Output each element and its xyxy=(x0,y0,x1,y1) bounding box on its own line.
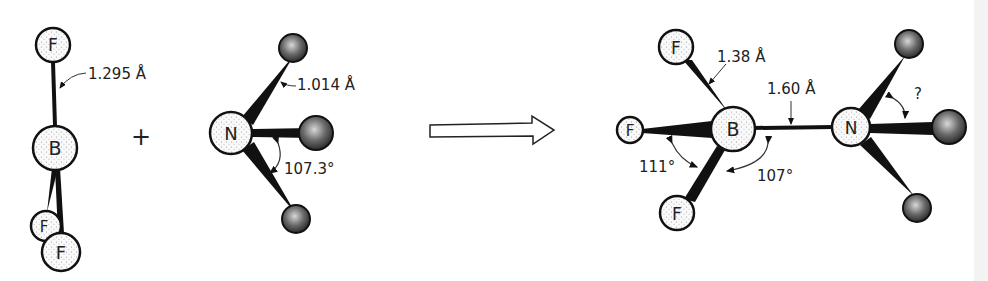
fbn-angle-label: 107° xyxy=(757,167,793,185)
fluorine-atom: F xyxy=(36,28,70,62)
svg-text:F: F xyxy=(48,35,58,55)
wedge-bond xyxy=(242,142,296,214)
fbf-angle-label: 111° xyxy=(639,158,675,176)
leader-arrow xyxy=(60,73,86,88)
hydrogen-atom xyxy=(932,110,966,144)
nitrogen-atom: N xyxy=(210,112,252,154)
boron-atom: B xyxy=(33,126,77,170)
nitrogen-atom: N xyxy=(832,108,870,146)
wedge-bond xyxy=(860,137,914,196)
bf-bond xyxy=(53,62,55,126)
reaction-diagram: F B F F 1.295 Å + N 1.014 Å 107.3 xyxy=(0,0,988,281)
fluorine-atom: F xyxy=(659,30,693,64)
angle-arrow xyxy=(893,98,905,118)
fluorine-atom: F xyxy=(617,117,643,143)
svg-text:F: F xyxy=(40,218,49,236)
bond-length-label: 1.295 Å xyxy=(88,64,147,83)
bn-bond-length-label: 1.60 Å xyxy=(767,79,816,98)
product-molecule: F F B F N 1.38 Å 1.60 Å 111° 107° ? xyxy=(617,30,966,230)
svg-text:F: F xyxy=(672,204,682,224)
hydrogen-atom xyxy=(279,34,307,62)
wedge-bond xyxy=(684,146,725,202)
svg-text:B: B xyxy=(726,118,739,140)
angle-arrow xyxy=(672,143,697,167)
plus-sign: + xyxy=(131,123,151,151)
svg-text:F: F xyxy=(56,242,66,263)
hydrogen-atom xyxy=(903,194,931,222)
svg-text:N: N xyxy=(224,123,237,144)
svg-text:F: F xyxy=(671,38,681,58)
wedge-bond xyxy=(858,56,905,119)
bf3-molecule: F B F F 1.295 Å xyxy=(31,28,147,271)
boron-atom: B xyxy=(711,107,755,151)
wedge-bond xyxy=(870,122,933,135)
svg-text:B: B xyxy=(48,137,61,159)
leader-arrow xyxy=(281,82,296,86)
hnh-angle-label: ? xyxy=(914,85,922,103)
fluorine-atom: F xyxy=(42,233,80,271)
hydrogen-atom xyxy=(895,30,923,58)
bf-bond-length-label: 1.38 Å xyxy=(717,47,766,66)
fluorine-atom: F xyxy=(660,196,694,230)
wedge-bond xyxy=(242,55,294,125)
bn-bond xyxy=(753,127,834,128)
svg-text:N: N xyxy=(845,118,858,138)
nh3-molecule: N 1.014 Å 107.3° xyxy=(210,34,356,233)
svg-text:F: F xyxy=(626,122,635,140)
reaction-arrow xyxy=(430,116,554,144)
bond-length-label: 1.014 Å xyxy=(297,75,356,94)
angle-arrow xyxy=(270,143,280,173)
leader-arrow xyxy=(709,64,726,84)
hydrogen-atom xyxy=(282,205,310,233)
wedge-bond xyxy=(683,60,728,112)
hydrogen-atom xyxy=(299,116,333,150)
bond-angle-label: 107.3° xyxy=(284,160,334,178)
wedge-bond xyxy=(642,121,712,138)
